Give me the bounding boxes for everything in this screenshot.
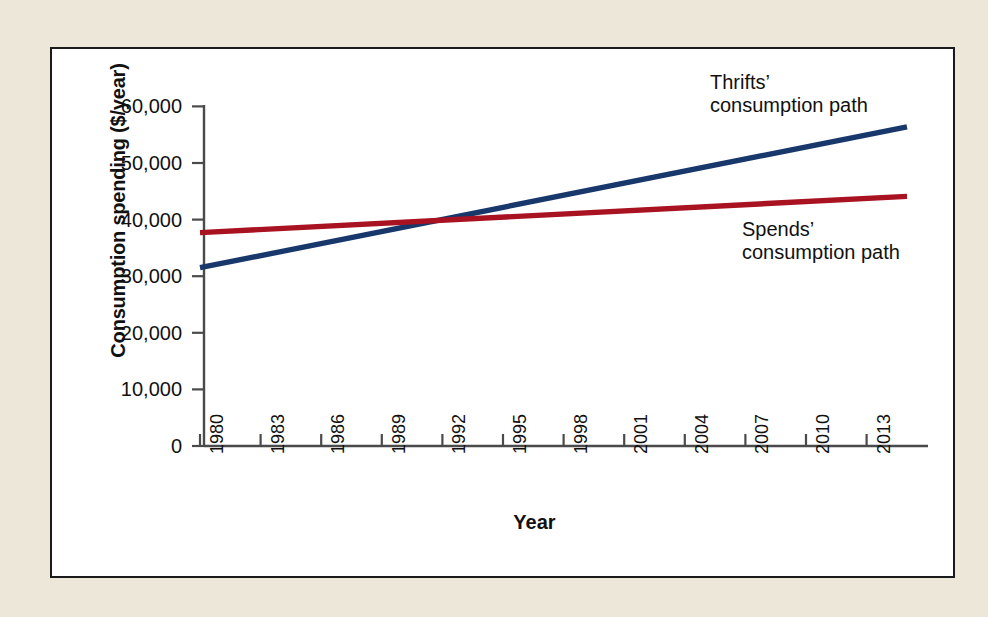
y-axis-tick-label: 10,000	[52, 378, 182, 401]
x-axis-tick-label: 1983	[268, 414, 289, 454]
x-axis-tick-label: 1998	[571, 414, 592, 454]
y-axis-ticks	[192, 106, 204, 446]
x-axis-tick-label: 1992	[449, 414, 470, 454]
y-axis-title: Consumption spending ($/year)	[107, 61, 130, 361]
x-axis-tick-label: 2004	[692, 414, 713, 454]
x-axis-tick-label: 2013	[874, 414, 895, 454]
chart-svg	[52, 49, 957, 580]
y-axis-tick-label: 0	[52, 435, 182, 458]
x-axis-tick-label: 2001	[631, 414, 652, 454]
x-axis-tick-label: 1989	[389, 414, 410, 454]
figure-root: 010,00020,00030,00040,00050,00060,000 19…	[0, 0, 988, 617]
x-axis-tick-label: 2007	[752, 414, 773, 454]
x-axis-tick-label: 1995	[510, 414, 531, 454]
x-axis-tick-label: 1986	[328, 414, 349, 454]
chart-panel: 010,00020,00030,00040,00050,00060,000 19…	[50, 47, 955, 578]
x-axis-tick-label: 1980	[207, 414, 228, 454]
thrifts-series-annotation: Thrifts’ consumption path	[710, 71, 868, 117]
x-axis-title: Year	[52, 511, 957, 534]
spends-series-annotation: Spends’ consumption path	[742, 218, 900, 264]
x-axis-title-text: Year	[453, 511, 555, 533]
plot-area: 010,00020,00030,00040,00050,00060,000 19…	[52, 49, 957, 580]
x-axis-tick-label: 2010	[813, 414, 834, 454]
